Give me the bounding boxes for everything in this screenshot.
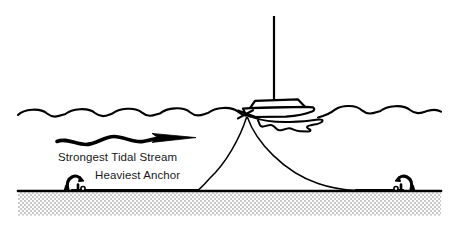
seabed-sediment — [18, 193, 441, 216]
label-strongest-tidal-stream: Strongest Tidal Stream — [58, 152, 177, 164]
water-surface-wave-line — [18, 106, 441, 117]
label-heaviest-anchor: Heaviest Anchor — [95, 170, 180, 182]
anchor-cable-right — [248, 118, 404, 191]
anchoring-diagram: Strongest Tidal Stream Heaviest Anchor — [0, 0, 458, 225]
diagram-canvas — [0, 0, 458, 225]
plough-anchor-left-icon — [65, 176, 86, 191]
plough-anchor-right-icon — [394, 176, 415, 191]
tidal-stream-arrow-icon — [57, 133, 196, 144]
